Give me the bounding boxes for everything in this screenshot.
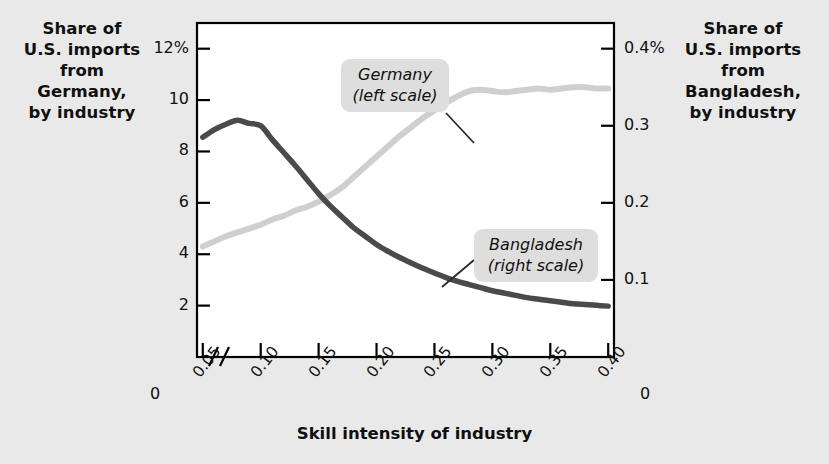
left-tick-label: 2 (179, 295, 189, 314)
callout-bangladesh-line2: (right scale) (484, 255, 588, 276)
left-tick-label: 12% (153, 38, 189, 57)
left-tick-label: 6 (179, 192, 189, 211)
left-axis-zero-label: 0 (150, 384, 160, 403)
callout-bangladesh: Bangladesh (right scale) (474, 229, 598, 282)
right-tick-label: 0.3 (624, 115, 649, 134)
left-tick-label: 10 (169, 89, 189, 108)
left-tick-label: 8 (179, 140, 189, 159)
callout-germany: Germany (left scale) (341, 59, 449, 112)
chart-figure: Share ofU.S. importsfromGermany,by indus… (0, 0, 829, 464)
callout-germany-line1: Germany (351, 64, 439, 85)
x-axis-title: Skill intensity of industry (0, 424, 829, 443)
left-tick-label: 4 (179, 243, 189, 262)
right-tick-label: 0.2 (624, 192, 649, 211)
callout-bangladesh-line1: Bangladesh (484, 234, 588, 255)
callout-germany-line2: (left scale) (351, 85, 439, 106)
right-tick-label: 0.1 (624, 269, 649, 288)
right-axis-zero-label: 0 (640, 384, 650, 403)
right-tick-label: 0.4% (624, 38, 665, 57)
